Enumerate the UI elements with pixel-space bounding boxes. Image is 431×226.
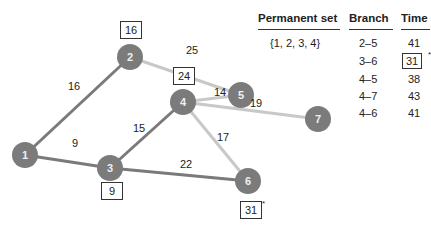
edge-label-4-5: 14 bbox=[214, 86, 226, 98]
header-underline bbox=[258, 29, 340, 30]
edge-label-3-4: 15 bbox=[133, 122, 145, 134]
row-time: 41 bbox=[408, 37, 420, 49]
header-underline bbox=[349, 29, 393, 30]
edge-label-1-3: 9 bbox=[72, 137, 78, 149]
edge-4-6 bbox=[183, 102, 248, 181]
row-branch: 4–7 bbox=[359, 90, 377, 102]
row-time: 38 bbox=[408, 73, 420, 85]
edge-label-1-2: 16 bbox=[68, 80, 80, 92]
node-2: 2 bbox=[117, 44, 143, 70]
node-1: 1 bbox=[12, 142, 38, 168]
distance-box-node-4: 24 bbox=[173, 67, 195, 85]
edge-label-3-6: 22 bbox=[180, 158, 192, 170]
node-3: 3 bbox=[97, 155, 123, 181]
header-branch: Branch bbox=[349, 12, 389, 24]
edge-3-4 bbox=[110, 102, 183, 168]
row-branch: 4–6 bbox=[359, 107, 377, 119]
header-permanent-set: Permanent set bbox=[258, 12, 337, 24]
svg-text:4: 4 bbox=[180, 96, 187, 108]
node-4: 4 bbox=[170, 89, 196, 115]
row-branch: 4–5 bbox=[359, 73, 377, 85]
distance-box-node-2: 16 bbox=[120, 21, 142, 39]
row-branch: 2–5 bbox=[359, 37, 377, 49]
header-underline bbox=[401, 29, 430, 30]
row-time-selected: 31 bbox=[402, 53, 422, 69]
row-time: 43 bbox=[408, 90, 420, 102]
row-branch: 3–6 bbox=[359, 55, 377, 67]
svg-text:5: 5 bbox=[238, 89, 244, 101]
distance-box-node-3: 9 bbox=[101, 182, 123, 200]
node-6: 6 bbox=[235, 168, 261, 194]
permanent-set-value: {1, 2, 3, 4} bbox=[270, 37, 320, 49]
svg-text:3: 3 bbox=[107, 162, 113, 174]
edge-label-2-5: 25 bbox=[186, 44, 198, 56]
selected-marker-node-6: * bbox=[262, 199, 265, 208]
row-time: 41 bbox=[408, 107, 420, 119]
header-time: Time bbox=[401, 12, 428, 24]
node-7: 7 bbox=[305, 106, 331, 132]
edge-label-4-6: 17 bbox=[217, 131, 229, 143]
svg-text:2: 2 bbox=[127, 51, 133, 63]
distance-box-node-6: 31 bbox=[240, 201, 262, 219]
svg-text:6: 6 bbox=[245, 175, 251, 187]
edge-3-6 bbox=[110, 168, 248, 181]
edge-label-4-7: 19 bbox=[250, 97, 262, 109]
svg-text:7: 7 bbox=[315, 113, 321, 125]
svg-text:1: 1 bbox=[22, 149, 28, 161]
